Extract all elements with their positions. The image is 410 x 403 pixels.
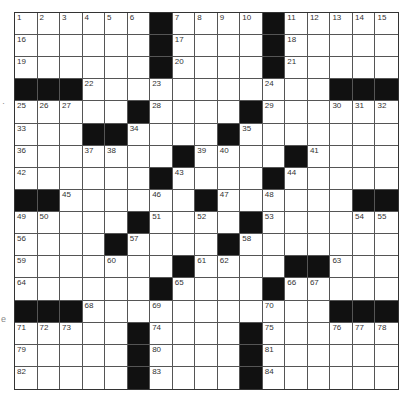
grid-cell[interactable] bbox=[353, 345, 376, 367]
grid-cell[interactable] bbox=[83, 234, 106, 256]
grid-cell[interactable]: 25 bbox=[15, 101, 38, 123]
grid-cell[interactable] bbox=[218, 212, 241, 234]
grid-cell[interactable] bbox=[38, 256, 61, 278]
grid-cell[interactable] bbox=[353, 168, 376, 190]
grid-cell[interactable]: 84 bbox=[263, 367, 286, 389]
grid-cell[interactable] bbox=[375, 168, 398, 190]
grid-cell[interactable]: 42 bbox=[15, 168, 38, 190]
grid-cell[interactable] bbox=[218, 367, 241, 389]
grid-cell[interactable] bbox=[128, 301, 151, 323]
grid-cell[interactable] bbox=[330, 57, 353, 79]
grid-cell[interactable] bbox=[218, 79, 241, 101]
grid-cell[interactable]: 39 bbox=[195, 146, 218, 168]
grid-cell[interactable]: 83 bbox=[150, 367, 173, 389]
grid-cell[interactable] bbox=[60, 124, 83, 146]
grid-cell[interactable] bbox=[330, 124, 353, 146]
grid-cell[interactable]: 81 bbox=[263, 345, 286, 367]
grid-cell[interactable] bbox=[353, 57, 376, 79]
grid-cell[interactable] bbox=[353, 124, 376, 146]
grid-cell[interactable] bbox=[285, 323, 308, 345]
grid-cell[interactable]: 40 bbox=[218, 146, 241, 168]
grid-cell[interactable]: 44 bbox=[285, 168, 308, 190]
grid-cell[interactable]: 24 bbox=[263, 79, 286, 101]
grid-cell[interactable]: 79 bbox=[15, 345, 38, 367]
grid-cell[interactable]: 9 bbox=[218, 13, 241, 35]
grid-cell[interactable] bbox=[60, 256, 83, 278]
grid-cell[interactable] bbox=[60, 367, 83, 389]
grid-cell[interactable] bbox=[240, 79, 263, 101]
grid-cell[interactable]: 5 bbox=[105, 13, 128, 35]
grid-cell[interactable]: 51 bbox=[150, 212, 173, 234]
grid-cell[interactable] bbox=[330, 234, 353, 256]
grid-cell[interactable] bbox=[105, 101, 128, 123]
grid-cell[interactable] bbox=[218, 101, 241, 123]
grid-cell[interactable] bbox=[285, 190, 308, 212]
grid-cell[interactable] bbox=[83, 57, 106, 79]
grid-cell[interactable] bbox=[240, 301, 263, 323]
grid-cell[interactable] bbox=[240, 256, 263, 278]
grid-cell[interactable]: 12 bbox=[308, 13, 331, 35]
grid-cell[interactable] bbox=[375, 146, 398, 168]
grid-cell[interactable]: 38 bbox=[105, 146, 128, 168]
grid-cell[interactable] bbox=[173, 124, 196, 146]
grid-cell[interactable] bbox=[83, 256, 106, 278]
grid-cell[interactable]: 4 bbox=[83, 13, 106, 35]
grid-cell[interactable] bbox=[308, 124, 331, 146]
grid-cell[interactable] bbox=[83, 345, 106, 367]
grid-cell[interactable]: 11 bbox=[285, 13, 308, 35]
grid-cell[interactable] bbox=[218, 278, 241, 300]
grid-cell[interactable]: 61 bbox=[195, 256, 218, 278]
grid-cell[interactable] bbox=[128, 57, 151, 79]
grid-cell[interactable] bbox=[60, 146, 83, 168]
grid-cell[interactable] bbox=[218, 35, 241, 57]
grid-cell[interactable] bbox=[60, 35, 83, 57]
grid-cell[interactable] bbox=[38, 146, 61, 168]
grid-cell[interactable]: 69 bbox=[150, 301, 173, 323]
grid-cell[interactable] bbox=[60, 168, 83, 190]
grid-cell[interactable] bbox=[105, 190, 128, 212]
grid-cell[interactable] bbox=[353, 146, 376, 168]
grid-cell[interactable] bbox=[330, 367, 353, 389]
grid-cell[interactable] bbox=[218, 168, 241, 190]
grid-cell[interactable] bbox=[375, 57, 398, 79]
grid-cell[interactable] bbox=[330, 212, 353, 234]
grid-cell[interactable] bbox=[353, 367, 376, 389]
grid-cell[interactable] bbox=[308, 212, 331, 234]
grid-cell[interactable] bbox=[105, 35, 128, 57]
grid-cell[interactable]: 36 bbox=[15, 146, 38, 168]
grid-cell[interactable] bbox=[353, 278, 376, 300]
grid-cell[interactable]: 34 bbox=[128, 124, 151, 146]
grid-cell[interactable] bbox=[83, 101, 106, 123]
grid-cell[interactable] bbox=[353, 256, 376, 278]
grid-cell[interactable] bbox=[105, 212, 128, 234]
grid-cell[interactable] bbox=[150, 124, 173, 146]
grid-cell[interactable] bbox=[308, 345, 331, 367]
grid-cell[interactable]: 16 bbox=[15, 35, 38, 57]
grid-cell[interactable] bbox=[240, 35, 263, 57]
grid-cell[interactable] bbox=[375, 345, 398, 367]
grid-cell[interactable] bbox=[83, 367, 106, 389]
grid-cell[interactable]: 35 bbox=[240, 124, 263, 146]
grid-cell[interactable]: 8 bbox=[195, 13, 218, 35]
grid-cell[interactable] bbox=[308, 234, 331, 256]
grid-cell[interactable] bbox=[218, 301, 241, 323]
grid-cell[interactable] bbox=[38, 57, 61, 79]
grid-cell[interactable]: 67 bbox=[308, 278, 331, 300]
grid-cell[interactable] bbox=[195, 278, 218, 300]
grid-cell[interactable] bbox=[83, 323, 106, 345]
grid-cell[interactable] bbox=[375, 234, 398, 256]
grid-cell[interactable]: 72 bbox=[38, 323, 61, 345]
grid-cell[interactable]: 76 bbox=[330, 323, 353, 345]
grid-cell[interactable] bbox=[173, 301, 196, 323]
grid-cell[interactable] bbox=[173, 234, 196, 256]
grid-cell[interactable] bbox=[173, 367, 196, 389]
grid-cell[interactable] bbox=[353, 234, 376, 256]
grid-cell[interactable]: 2 bbox=[38, 13, 61, 35]
grid-cell[interactable] bbox=[285, 101, 308, 123]
grid-cell[interactable] bbox=[375, 124, 398, 146]
grid-cell[interactable]: 60 bbox=[105, 256, 128, 278]
grid-cell[interactable]: 26 bbox=[38, 101, 61, 123]
grid-cell[interactable] bbox=[105, 278, 128, 300]
grid-cell[interactable] bbox=[218, 57, 241, 79]
grid-cell[interactable] bbox=[285, 367, 308, 389]
